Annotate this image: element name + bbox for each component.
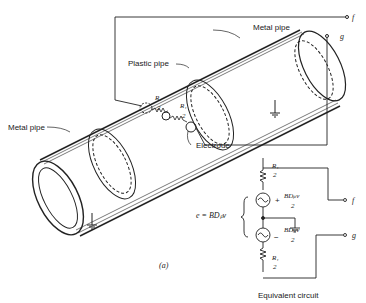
label-metal-pipe-left: Metal pipe bbox=[8, 123, 45, 132]
label-plastic-pipe: Plastic pipe bbox=[128, 59, 169, 68]
circuit-terminal-f: f bbox=[352, 196, 356, 205]
brace bbox=[241, 197, 248, 237]
equivalent-circuit bbox=[241, 158, 347, 278]
resistor-icon bbox=[260, 168, 266, 190]
pipe-open-end bbox=[22, 153, 94, 242]
label-metal-pipe-top: Metal pipe bbox=[253, 23, 290, 32]
bot-src-den: 2 bbox=[291, 236, 295, 244]
top-src-den: 2 bbox=[291, 202, 295, 210]
equivalent-circuit-caption: Equivalent circuit bbox=[258, 291, 319, 300]
circuit-r1-num: R₁ bbox=[271, 162, 279, 170]
circuit-r1-den: 2 bbox=[273, 171, 277, 179]
top-src-num: BDₚv bbox=[284, 192, 300, 200]
circuit-r1b-den: 2 bbox=[273, 263, 277, 271]
pipe-r2-den: 2 bbox=[182, 112, 186, 120]
bot-src-num: BDₚv bbox=[284, 226, 300, 234]
pipe-source-icon bbox=[162, 112, 170, 120]
pipe-r2-num: R₁ bbox=[179, 102, 187, 110]
circuit-terminal-g: g bbox=[352, 231, 356, 240]
terminal-f-label: f bbox=[352, 13, 356, 22]
label-electrode: Electrode bbox=[196, 141, 230, 150]
pipe-r1-num: R₁ bbox=[154, 94, 162, 102]
pipe-assembly bbox=[22, 16, 355, 243]
plus-sign: + bbox=[275, 196, 280, 205]
ground-icon bbox=[87, 213, 97, 229]
ground-icon bbox=[270, 100, 280, 117]
flowmeter-diagram: Metal pipe Plastic pipe Metal pipe Elect… bbox=[0, 0, 366, 303]
resistor-icon bbox=[260, 242, 266, 272]
electrode-icon bbox=[186, 122, 196, 132]
emf-equation: e = BDₚv bbox=[196, 211, 227, 220]
minus-sign: − bbox=[274, 233, 279, 242]
terminal-g-label: g bbox=[340, 32, 344, 41]
circuit-r1b-num: R₁ bbox=[271, 254, 279, 262]
figure-label: (a) bbox=[159, 261, 169, 270]
pipe-r1-den: 2 bbox=[157, 104, 161, 112]
